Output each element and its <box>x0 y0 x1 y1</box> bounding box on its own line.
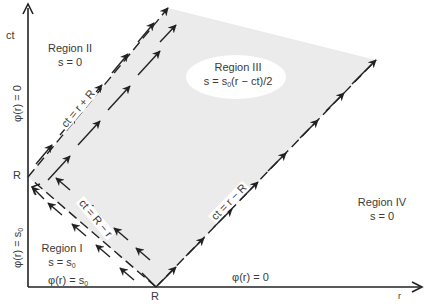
bc-left-upper: φ(r) = 0 <box>12 85 23 122</box>
bc-bottom-right: φ(r) = 0 <box>232 272 269 283</box>
ct-axis-tick-R: R <box>13 170 21 181</box>
bc-bottom-left: φ(r) = s0 <box>48 275 88 287</box>
ct-axis-label: ct <box>6 30 15 41</box>
region-i-label: Region I s = s0 <box>34 243 90 269</box>
r-axis-tick-R: R <box>151 291 159 302</box>
region-iii-label: Region III s = s0(r − ct)/2 <box>188 62 288 88</box>
bc-left-lower: φ(r) = s0 <box>12 228 24 268</box>
r-axis-label: r <box>398 292 401 301</box>
region-iv-label: Region IV s = 0 <box>350 197 414 222</box>
region-ii-label: Region II s = 0 <box>42 43 98 68</box>
